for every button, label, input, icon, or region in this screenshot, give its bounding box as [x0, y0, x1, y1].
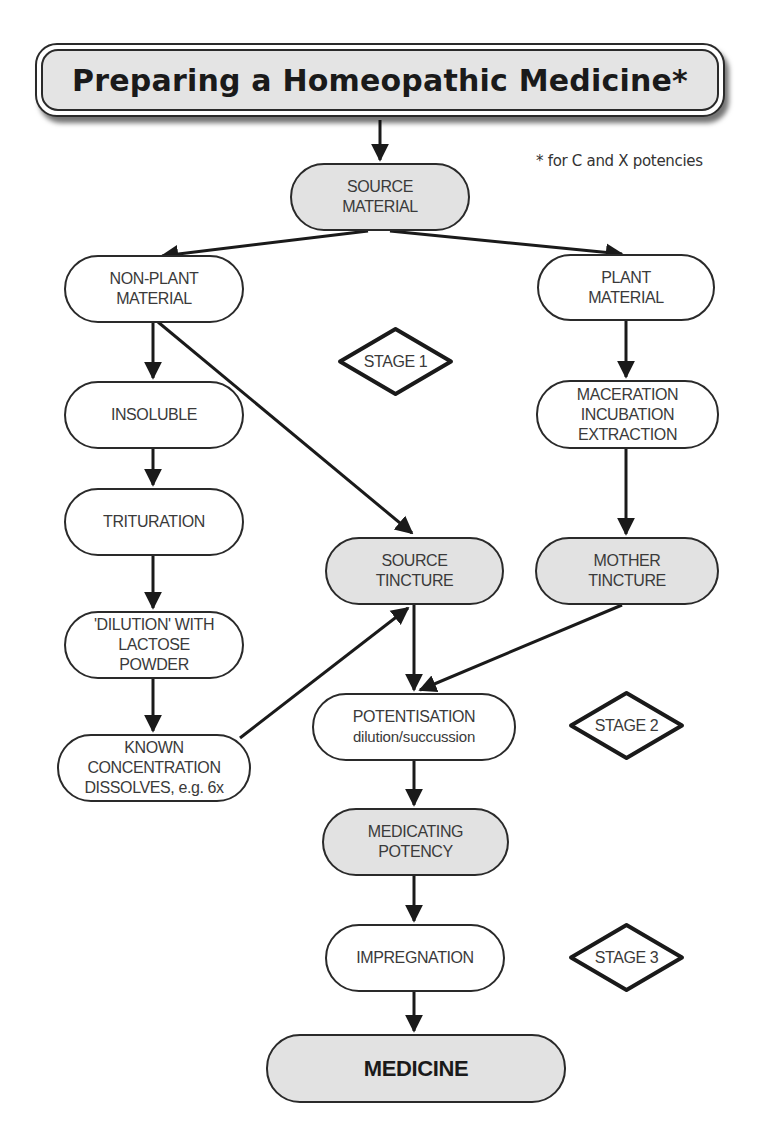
- node-known-concentration: KNOWN CONCENTRATION DISSOLVES, e.g. 6x: [57, 734, 251, 802]
- page-title: Preparing a Homeopathic Medicine*: [72, 63, 688, 98]
- node-line: MACERATION: [577, 385, 679, 405]
- node-line: POTENTISATION: [353, 707, 476, 727]
- node-potentisation: POTENTISATION dilution/succussion: [312, 693, 516, 761]
- footnote: * for C and X potencies: [536, 152, 703, 170]
- node-medicine: MEDICINE: [266, 1034, 566, 1103]
- node-line: INSOLUBLE: [111, 405, 197, 425]
- node-line: IMPREGNATION: [356, 948, 474, 968]
- node-non-plant-material: NON-PLANT MATERIAL: [64, 255, 244, 323]
- node-line: POTENCY: [378, 842, 453, 862]
- edge-mother-tincture-to-potentisation: [420, 605, 622, 690]
- stage-2-diamond: STAGE 2: [568, 690, 685, 761]
- title-inner: Preparing a Homeopathic Medicine*: [41, 49, 719, 111]
- stage-1-label: STAGE 1: [337, 326, 454, 397]
- title-banner: Preparing a Homeopathic Medicine*: [35, 43, 725, 117]
- node-line: CONCENTRATION: [87, 758, 220, 778]
- node-mother-tincture: MOTHER TINCTURE: [535, 537, 719, 605]
- node-line: DISSOLVES, e.g. 6x: [84, 778, 223, 798]
- node-line: EXTRACTION: [578, 425, 677, 445]
- stage-1-diamond: STAGE 1: [337, 326, 454, 397]
- node-line: MEDICATING: [368, 822, 463, 842]
- node-dilution-with-lactose-powder: 'DILUTION' WITH LACTOSE POWDER: [64, 611, 244, 679]
- node-line: 'DILUTION' WITH: [94, 615, 214, 635]
- node-subline: dilution/succussion: [353, 727, 475, 747]
- stage-3-diamond: STAGE 3: [568, 922, 685, 993]
- node-trituration: TRITURATION: [64, 488, 244, 556]
- stage-3-label: STAGE 3: [568, 922, 685, 993]
- node-line: POWDER: [119, 655, 189, 675]
- node-line: MATERIAL: [116, 289, 192, 309]
- flowchart: Preparing a Homeopathic Medicine* * for …: [0, 0, 761, 1143]
- node-line: KNOWN: [124, 738, 183, 758]
- node-maceration-incubation-extraction: MACERATION INCUBATION EXTRACTION: [536, 380, 719, 449]
- node-line: MOTHER: [594, 551, 661, 571]
- node-line: SOURCE: [381, 551, 447, 571]
- node-line: MATERIAL: [342, 197, 418, 217]
- node-line: MATERIAL: [588, 288, 664, 308]
- node-line: MEDICINE: [364, 1059, 468, 1079]
- node-line: TINCTURE: [376, 571, 454, 591]
- node-insoluble: INSOLUBLE: [64, 381, 244, 449]
- node-medicating-potency: MEDICATING POTENCY: [322, 808, 509, 876]
- node-line: INCUBATION: [581, 405, 675, 425]
- node-line: PLANT: [601, 268, 651, 288]
- node-source-tincture: SOURCE TINCTURE: [325, 537, 504, 605]
- edge-source-to-nonplant: [162, 231, 368, 256]
- node-line: SOURCE: [347, 177, 413, 197]
- node-line: TINCTURE: [588, 571, 666, 591]
- node-line: TRITURATION: [103, 512, 205, 532]
- node-line: LACTOSE: [118, 635, 190, 655]
- stage-2-label: STAGE 2: [568, 690, 685, 761]
- node-source-material: SOURCE MATERIAL: [290, 163, 470, 231]
- node-impregnation: IMPREGNATION: [325, 924, 505, 992]
- edge-source-to-plant: [390, 231, 622, 254]
- node-line: NON-PLANT: [110, 269, 199, 289]
- node-plant-material: PLANT MATERIAL: [537, 254, 715, 321]
